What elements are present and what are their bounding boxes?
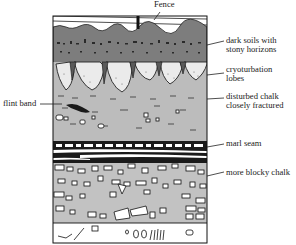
label-flint-band: flint band: [3, 99, 36, 108]
label-fence: Fence: [154, 0, 175, 9]
label-marl-seam: marl seam: [226, 139, 262, 148]
fence-post: [137, 13, 140, 29]
base-layer: [53, 223, 207, 243]
label-dark-soils-line2: stony horizons: [226, 45, 276, 54]
label-cryoturbation-line2: lobes: [226, 74, 244, 83]
label-blocky-chalk: more blocky chalk: [226, 168, 290, 177]
label-disturbed-line2: closely fractured: [226, 101, 284, 110]
blocky-chalk-layer: [53, 163, 207, 223]
marl-seam: [53, 141, 207, 163]
